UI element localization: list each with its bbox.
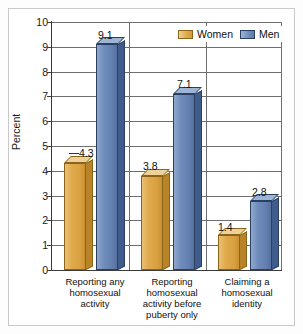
- category-label-2: Claiming a homosexual identity: [209, 276, 285, 309]
- bar-side: [240, 232, 247, 270]
- bar-face: [250, 201, 272, 270]
- y-tick-label-0: 0: [22, 265, 48, 275]
- bar-side: [272, 197, 279, 270]
- chart-legend: Women Men: [174, 26, 283, 42]
- y-tick-label-3: 3: [22, 191, 48, 201]
- bar-women-claiming-a-homosexual-identity[interactable]: [218, 235, 240, 270]
- value-label-men-1: 7.1: [177, 79, 192, 90]
- y-tick-label-10: 10: [22, 17, 48, 27]
- bar-face: [141, 176, 163, 270]
- category-separator-2: [206, 22, 207, 270]
- bar-men-claiming-a-homosexual-identity[interactable]: [250, 201, 272, 270]
- value-label-women-0: 4.3: [79, 148, 94, 159]
- y-axis-title: Percent: [10, 114, 22, 150]
- y-tick-mark-3: [47, 196, 52, 197]
- gridline-8: [52, 72, 282, 73]
- bar-men-reporting-homosexual-activity-before-puberty-only[interactable]: [173, 94, 195, 270]
- y-tick-label-8: 8: [22, 67, 48, 77]
- legend-item-women[interactable]: Women: [178, 28, 233, 40]
- bar-side: [86, 160, 93, 270]
- value-label-women-2: 1.4: [218, 222, 233, 233]
- category-separator-1: [129, 22, 130, 270]
- bar-women-reporting-any-homosexual-activity[interactable]: [64, 163, 86, 270]
- bar-men-reporting-any-homosexual-activity[interactable]: [96, 44, 118, 270]
- bar-side: [195, 90, 202, 270]
- bar-face: [64, 163, 86, 270]
- value-label-women-1: 3.8: [143, 161, 158, 172]
- y-tick-label-5: 5: [22, 141, 48, 151]
- bar-face: [96, 44, 118, 270]
- y-tick-mark-5: [47, 146, 52, 147]
- gridline-9: [52, 47, 282, 48]
- gridline-baseline: [52, 270, 282, 271]
- y-tick-label-1: 1: [22, 240, 48, 250]
- category-label-1: Reporting homosexual activity before pub…: [133, 276, 211, 320]
- value-leader-line-women-0: [69, 153, 79, 154]
- category-label-0: Reporting any homosexual activity: [56, 276, 134, 309]
- y-tick-mark-0: [47, 270, 52, 271]
- y-tick-mark-10: [47, 22, 52, 23]
- legend-label-women: Women: [197, 28, 233, 40]
- gridline-7: [52, 96, 282, 97]
- y-tick-mark-2: [47, 220, 52, 221]
- y-tick-label-7: 7: [22, 91, 48, 101]
- legend-item-men[interactable]: Men: [240, 28, 279, 40]
- y-tick-label-2: 2: [22, 215, 48, 225]
- legend-swatch-men-icon: [240, 30, 255, 39]
- gridline-10: [52, 22, 282, 23]
- legend-swatch-women-icon: [178, 30, 193, 39]
- y-tick-mark-4: [47, 171, 52, 172]
- legend-label-men: Men: [259, 28, 279, 40]
- bar-face: [218, 235, 240, 270]
- gridline-6: [52, 121, 282, 122]
- plot-right-edge: [281, 22, 282, 270]
- y-tick-mark-8: [47, 72, 52, 73]
- chart-screenshot: Percent 10 9 8 7 6 5 4 3 2 1 0: [0, 0, 303, 334]
- bar-women-reporting-homosexual-activity-before-puberty-only[interactable]: [141, 176, 163, 270]
- value-label-men-0: 9.1: [98, 30, 113, 41]
- y-tick-label-6: 6: [22, 116, 48, 126]
- y-tick-label-4: 4: [22, 166, 48, 176]
- bar-side: [163, 172, 170, 270]
- y-tick-mark-1: [47, 245, 52, 246]
- value-label-men-2: 2.8: [252, 187, 267, 198]
- y-tick-mark-9: [47, 47, 52, 48]
- y-tick-label-9: 9: [22, 42, 48, 52]
- y-tick-mark-6: [47, 121, 52, 122]
- y-tick-mark-7: [47, 96, 52, 97]
- plot-area: 4.3 9.1 3.8 7.1 1.4 2.8: [52, 22, 282, 270]
- bar-side: [118, 41, 125, 270]
- bar-face: [173, 94, 195, 270]
